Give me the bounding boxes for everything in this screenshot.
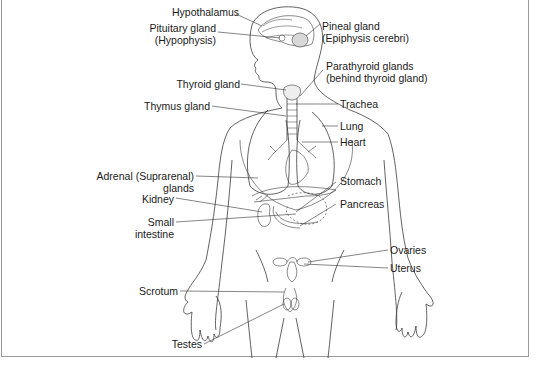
label-small-intestine-line2: intestine	[110, 228, 174, 240]
label-pituitary-line2: (Hypophysis)	[130, 34, 216, 46]
label-trachea: Trachea	[340, 98, 378, 110]
label-thymus-gland: Thymus gland	[130, 100, 210, 112]
label-parathyroid-glands: Parathyroid glands (behind thyroid gland…	[326, 60, 428, 84]
label-small-intestine: Small intestine	[110, 216, 174, 240]
label-pineal-line2: (Epiphysis cerebri)	[322, 32, 409, 44]
label-pituitary-gland: Pituitary gland (Hypophysis)	[130, 22, 216, 46]
label-heart: Heart	[340, 136, 366, 148]
label-hypothalamus: Hypothalamus	[172, 6, 234, 18]
label-pancreas: Pancreas	[340, 198, 384, 210]
label-testes: Testes	[150, 338, 202, 350]
label-parathyroid-line1: Parathyroid glands	[326, 60, 428, 72]
label-parathyroid-line2: (behind thyroid gland)	[326, 72, 428, 84]
label-thyroid-gland: Thyroid gland	[150, 78, 240, 90]
label-pituitary-line1: Pituitary gland	[130, 22, 216, 34]
label-pineal-gland: Pineal gland (Epiphysis cerebri)	[322, 20, 409, 44]
label-ovaries: Ovaries	[390, 244, 426, 256]
label-adrenal-line1: Adrenal (Suprarenal)	[70, 170, 194, 182]
label-uterus: Uterus	[390, 262, 421, 274]
label-lung: Lung	[340, 120, 363, 132]
label-pineal-line1: Pineal gland	[322, 20, 409, 32]
label-stomach: Stomach	[340, 175, 381, 187]
label-small-intestine-line1: Small	[110, 216, 174, 228]
label-kidney: Kidney	[120, 193, 174, 205]
label-adrenal-glands: Adrenal (Suprarenal) glands	[70, 170, 194, 194]
label-scrotum: Scrotum	[120, 285, 178, 297]
